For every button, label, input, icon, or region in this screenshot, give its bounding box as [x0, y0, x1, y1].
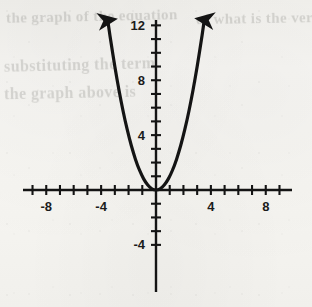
- x-axis-label: -8: [40, 199, 52, 214]
- x-axis-label: 4: [207, 199, 215, 214]
- y-axis-label: -4: [133, 237, 145, 252]
- graph-page: the graph of the equationof what is the …: [0, 0, 312, 307]
- y-axis-label: 12: [131, 18, 145, 33]
- x-axis-label: -4: [95, 199, 107, 214]
- axis-lines: [23, 20, 292, 292]
- y-axis-label: 8: [138, 73, 145, 88]
- y-axis-tick-labels: 1284-4: [131, 18, 146, 253]
- y-axis-label: 4: [138, 128, 146, 143]
- x-axis-label: 8: [262, 199, 269, 214]
- coordinate-plane: -8-448 1284-4: [0, 0, 312, 307]
